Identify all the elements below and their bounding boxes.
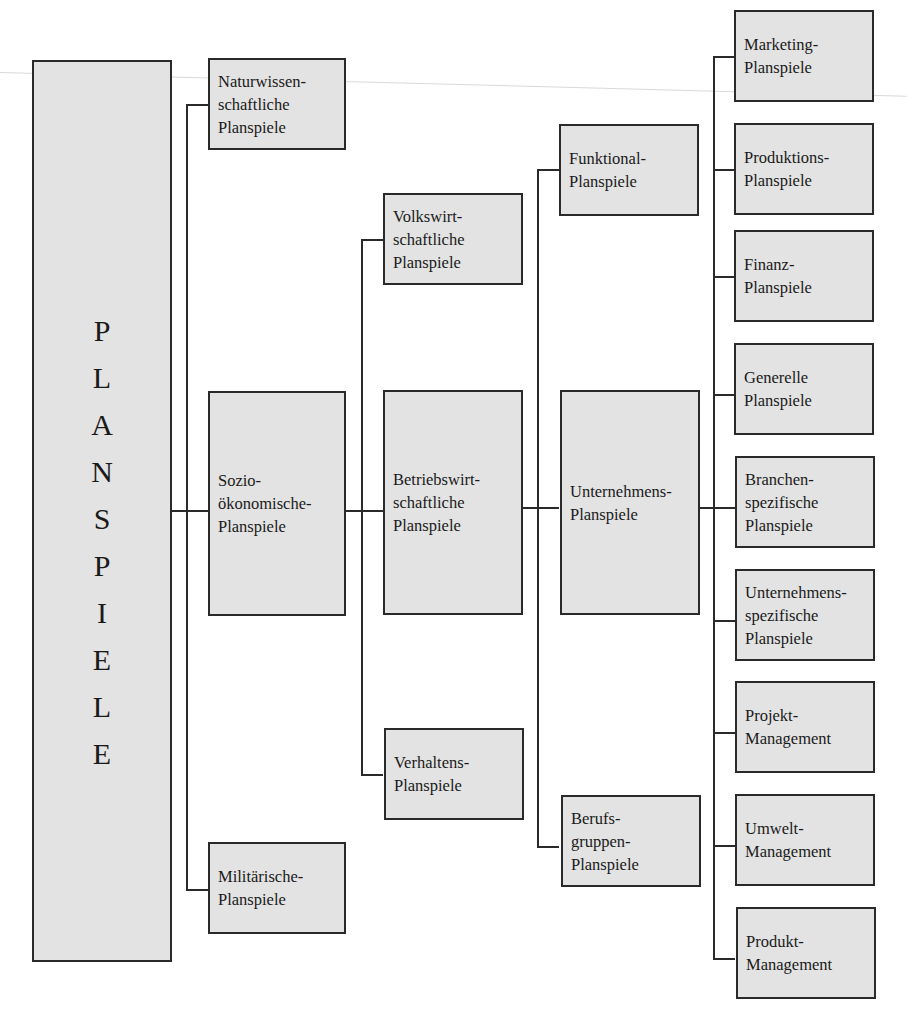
connector-to-finanz <box>713 276 735 278</box>
connector-to-verhaltens <box>361 774 383 776</box>
connector-to-soziooekonomische <box>186 510 208 512</box>
node-label-line: Funktional- <box>569 147 646 170</box>
connector-to-berufsgruppen <box>537 846 559 848</box>
node-soziooekonomische: Sozio- ökonomische- Planspiele <box>208 391 346 616</box>
connector-to-betriebswirtschaftliche <box>361 510 383 512</box>
node-label-line: Planspiele <box>745 627 847 650</box>
connector-sozio-to-trunk2 <box>346 510 362 512</box>
node-label-line: Planspiele <box>570 503 672 526</box>
node-label-line: Verhaltens- <box>394 751 469 774</box>
node-label-line: schaftliche <box>393 228 464 251</box>
node-label-line: Planspiele <box>569 170 646 193</box>
node-label-line: Umwelt- <box>745 817 831 840</box>
node-label-line: Branchen- <box>745 468 818 491</box>
node-label-line: Produkt- <box>746 930 832 953</box>
connector-to-produktions <box>713 169 735 171</box>
node-produktions: Produktions- Planspiele <box>734 123 874 215</box>
root-letter: N <box>34 448 170 495</box>
node-label-line: Planspiele <box>745 514 818 537</box>
connector-to-produkt-management <box>713 958 735 960</box>
root-letter: L <box>34 683 170 730</box>
root-letter: I <box>34 589 170 636</box>
node-label-line: ökonomische- <box>218 492 311 515</box>
connector-to-militaerische <box>186 889 208 891</box>
connector-trunk-level1 <box>186 104 188 890</box>
node-label-line: Produktions- <box>744 146 829 169</box>
node-label-line: Planspiele <box>218 515 311 538</box>
connector-to-volkswirtschaftliche <box>361 239 383 241</box>
root-letter: E <box>34 636 170 683</box>
node-label-line: Sozio- <box>218 469 311 492</box>
node-berufsgruppen: Berufs- gruppen- Planspiele <box>561 795 701 887</box>
node-label-line: Planspiele <box>218 888 303 911</box>
node-unternehmens: Unternehmens- Planspiele <box>560 390 700 615</box>
connector-to-unternehmensspezifische <box>713 620 735 622</box>
node-finanz: Finanz- Planspiele <box>734 230 874 322</box>
node-label-line: Finanz- <box>744 253 812 276</box>
node-label-line: Militärische- <box>218 865 303 888</box>
node-label-line: Projekt- <box>745 704 831 727</box>
connector-to-generelle <box>713 394 735 396</box>
node-umwelt-management: Umwelt- Management <box>735 794 875 886</box>
node-marketing: Marketing- Planspiele <box>734 10 874 102</box>
node-label-line: Berufs- <box>571 807 639 830</box>
root-label-vertical: P L A N S P I E L E <box>34 307 170 777</box>
node-label-line: gruppen- <box>571 830 639 853</box>
connector-to-projekt-management <box>713 732 735 734</box>
node-naturwissenschaftliche: Naturwissen- schaftliche Planspiele <box>208 58 346 150</box>
node-generelle: Generelle Planspiele <box>734 343 874 435</box>
node-label-line: spezifische <box>745 491 818 514</box>
node-militaerische: Militärische- Planspiele <box>208 842 346 934</box>
root-letter: S <box>34 495 170 542</box>
root-box-planspiele: P L A N S P I E L E <box>32 60 172 962</box>
node-label-line: Unternehmens- <box>570 480 672 503</box>
root-letter: P <box>34 307 170 354</box>
node-label-line: Planspiele <box>571 853 639 876</box>
node-funktional: Funktional- Planspiele <box>559 124 699 216</box>
node-label-line: Management <box>746 953 832 976</box>
connector-to-branchenspezifische <box>713 507 735 509</box>
node-label-line: Volkswirt- <box>393 205 464 228</box>
node-produkt-management: Produkt- Management <box>736 907 876 999</box>
node-betriebswirtschaftliche: Betriebswirt- schaftliche Planspiele <box>383 390 523 615</box>
connector-unternehmens-to-trunk4 <box>700 507 714 509</box>
node-label-line: Marketing- <box>744 33 818 56</box>
connector-trunk-level2 <box>361 239 363 775</box>
node-label-line: Planspiele <box>394 774 469 797</box>
connector-to-unternehmens <box>537 507 559 509</box>
node-label-line: Planspiele <box>393 251 464 274</box>
node-label-line: Management <box>745 727 831 750</box>
node-label-line: Planspiele <box>744 389 812 412</box>
root-letter: L <box>34 354 170 401</box>
node-label-line: Planspiele <box>744 276 812 299</box>
node-label-line: schaftliche <box>218 93 306 116</box>
root-letter: E <box>34 730 170 777</box>
node-label-line: Planspiele <box>393 514 480 537</box>
node-label-line: Management <box>745 840 831 863</box>
node-label-line: Betriebswirt- <box>393 468 480 491</box>
node-label-line: Planspiele <box>744 56 818 79</box>
node-volkswirtschaftliche: Volkswirt- schaftliche Planspiele <box>383 193 523 285</box>
node-label-line: Unternehmens- <box>745 581 847 604</box>
node-projekt-management: Projekt- Management <box>735 681 875 773</box>
connector-to-umwelt-management <box>713 845 735 847</box>
root-letter: P <box>34 542 170 589</box>
root-letter: A <box>34 401 170 448</box>
node-label-line: Planspiele <box>744 169 829 192</box>
planspiele-classification-diagram: P L A N S P I E L E Naturwissen- schaftl… <box>0 0 907 1012</box>
node-unternehmensspezifische: Unternehmens- spezifische Planspiele <box>735 569 875 661</box>
node-verhaltens: Verhaltens- Planspiele <box>384 728 524 820</box>
node-label-line: spezifische <box>745 604 847 627</box>
connector-to-funktional <box>537 169 559 171</box>
connector-to-marketing <box>713 56 735 58</box>
node-label-line: Generelle <box>744 366 812 389</box>
node-branchenspezifische: Branchen- spezifische Planspiele <box>735 456 875 548</box>
node-label-line: schaftliche <box>393 491 480 514</box>
node-label-line: Naturwissen- <box>218 70 306 93</box>
connector-to-naturwissenschaftliche <box>186 104 208 106</box>
node-label-line: Planspiele <box>218 116 306 139</box>
